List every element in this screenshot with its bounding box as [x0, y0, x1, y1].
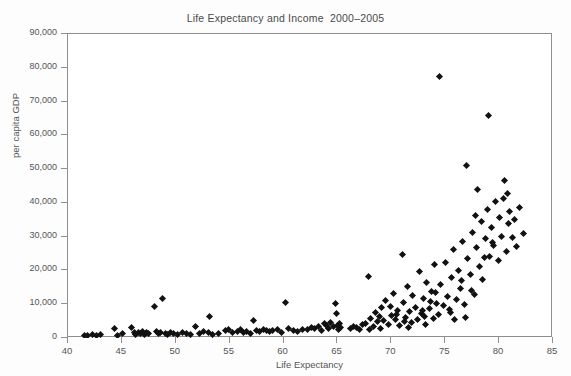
- scatter-point: [365, 273, 372, 280]
- y-axis-tick-label: 40,000: [0, 196, 57, 206]
- x-axis-tick-label: 70: [370, 345, 410, 356]
- scatter-point: [215, 330, 222, 337]
- scatter-point: [466, 271, 473, 278]
- y-axis-tick-label: 50,000: [0, 162, 57, 172]
- scatter-point: [159, 295, 166, 302]
- scatter-point: [492, 198, 499, 205]
- x-axis-tick-label: 85: [532, 345, 571, 356]
- scatter-point: [332, 300, 339, 307]
- scatter-point: [151, 303, 158, 310]
- scatter-point: [377, 325, 384, 332]
- x-axis-tick-label: 80: [478, 345, 518, 356]
- scatter-point: [444, 293, 451, 300]
- scatter-point: [520, 230, 527, 237]
- scatter-point: [451, 316, 458, 323]
- scatter-point: [506, 208, 513, 215]
- scatter-point: [511, 216, 518, 223]
- scatter-point: [508, 234, 515, 241]
- scatter-point: [278, 329, 285, 336]
- scatter-point: [282, 299, 289, 306]
- scatter-point: [422, 321, 429, 328]
- scatter-point: [423, 279, 430, 286]
- scatter-point: [478, 218, 485, 225]
- scatter-point: [387, 303, 394, 310]
- x-axis-tick-label: 75: [424, 345, 464, 356]
- scatter-point: [406, 308, 413, 315]
- scatter-point: [432, 289, 439, 296]
- scatter-point: [119, 330, 126, 337]
- x-axis-tick-label: 65: [316, 345, 356, 356]
- x-axis-title: Life Expectancy: [67, 359, 552, 370]
- scatter-point: [333, 310, 340, 317]
- scatter-plot-area: [68, 34, 553, 338]
- scatter-point: [390, 290, 397, 297]
- scatter-point: [474, 186, 481, 193]
- scatter-point: [494, 257, 501, 264]
- y-axis-tick-label: 60,000: [0, 128, 57, 138]
- scatter-point: [382, 297, 389, 304]
- scatter-point: [463, 162, 470, 169]
- scatter-point: [455, 267, 462, 274]
- scatter-point: [458, 277, 465, 284]
- scatter-point: [464, 255, 471, 262]
- y-axis-tick-label: 90,000: [0, 27, 57, 37]
- scatter-point: [462, 314, 469, 321]
- x-axis-tick-label: 50: [155, 345, 195, 356]
- x-axis-tick-label: 55: [209, 345, 249, 356]
- scatter-point: [513, 243, 520, 250]
- y-axis-tick-label: 30,000: [0, 230, 57, 240]
- x-axis-tick-label: 45: [101, 345, 141, 356]
- scatter-point: [436, 73, 443, 80]
- chart-screenshot: Life Expectancy and Income 2000–2005 per…: [0, 0, 571, 376]
- scatter-point: [411, 304, 418, 311]
- y-axis-tick-label: 20,000: [0, 263, 57, 273]
- scatter-point: [450, 246, 457, 253]
- scatter-point: [426, 305, 433, 312]
- scatter-point: [442, 259, 449, 266]
- scatter-point: [431, 261, 438, 268]
- scatter-point: [476, 263, 483, 270]
- scatter-point: [457, 285, 464, 292]
- scatter-point: [472, 212, 479, 219]
- scatter-point: [496, 214, 503, 221]
- scatter-point: [250, 317, 257, 324]
- scatter-point: [437, 281, 444, 288]
- y-axis-tick-label: 70,000: [0, 95, 57, 105]
- chart-title: Life Expectancy and Income 2000–2005: [0, 12, 571, 24]
- scatter-point: [480, 254, 487, 261]
- x-axis-tick-label: 40: [47, 345, 87, 356]
- scatter-point: [399, 251, 406, 258]
- scatter-point: [503, 248, 510, 255]
- scatter-point: [501, 177, 508, 184]
- scatter-point: [409, 292, 416, 299]
- scatter-point: [416, 268, 423, 275]
- scatter-point: [459, 238, 466, 245]
- scatter-point: [448, 274, 455, 281]
- plot-frame: [67, 33, 552, 337]
- scatter-point: [498, 233, 505, 240]
- scatter-point: [488, 224, 495, 231]
- scatter-point: [452, 296, 459, 303]
- scatter-point: [473, 244, 480, 251]
- scatter-point: [192, 323, 199, 330]
- scatter-point: [378, 304, 385, 311]
- scatter-point: [479, 276, 486, 283]
- scatter-point: [485, 112, 492, 119]
- scatter-point: [187, 331, 194, 338]
- y-axis-tick-label: 0: [0, 331, 57, 341]
- y-axis-tick-label: 80,000: [0, 61, 57, 71]
- scatter-point: [516, 204, 523, 211]
- y-axis-tick-label: 10,000: [0, 297, 57, 307]
- scatter-point: [461, 301, 468, 308]
- scatter-point: [484, 206, 491, 213]
- scatter-point: [469, 229, 476, 236]
- x-axis-tick-label: 60: [263, 345, 303, 356]
- scatter-point: [400, 299, 407, 306]
- scatter-point: [505, 220, 512, 227]
- scatter-point: [447, 309, 454, 316]
- scatter-point: [206, 313, 213, 320]
- scatter-point: [482, 235, 489, 242]
- scatter-point: [404, 283, 411, 290]
